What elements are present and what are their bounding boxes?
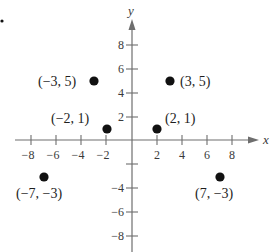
point-label: (7, −3) — [195, 186, 234, 202]
y-tick-label: 8 — [118, 38, 124, 52]
point-neg2-1 — [102, 124, 111, 133]
y-axis-label: y — [126, 3, 134, 18]
x-axis — [15, 137, 259, 144]
y-tick-label: −6 — [111, 205, 124, 219]
point-label: (−2, 1) — [51, 111, 90, 127]
x-tick-label: −6 — [47, 148, 60, 162]
point-neg7-neg3 — [39, 172, 48, 181]
y-tick-label: 6 — [118, 62, 124, 76]
x-tick-label: 8 — [229, 148, 235, 162]
point-label: (2, 1) — [165, 111, 196, 127]
x-axis-arrow-icon — [248, 137, 259, 144]
point-label: (−3, 5) — [38, 74, 77, 90]
stray-bullet-dot — [0, 19, 3, 22]
point-labels: (−3, 5) (3, 5) (−2, 1) (2, 1) (−7, −3) (… — [16, 74, 234, 202]
x-tick-label: 2 — [154, 148, 160, 162]
x-tick-label: −8 — [22, 148, 35, 162]
point-7-neg3 — [215, 172, 224, 181]
y-tick-label: −8 — [111, 229, 124, 243]
x-axis-label: x — [262, 132, 269, 147]
point-neg3-5 — [89, 76, 98, 85]
point-2-1 — [152, 124, 161, 133]
x-tick-labels: −8 −6 −4 −2 2 4 6 8 — [22, 148, 235, 162]
point-3-5 — [165, 76, 174, 85]
x-tick-label: −2 — [97, 148, 110, 162]
y-tick-label: 4 — [118, 86, 124, 100]
x-tick-label: −4 — [72, 148, 85, 162]
y-tick-label: 2 — [118, 110, 124, 124]
y-axis-arrow-icon — [129, 19, 136, 30]
x-tick-label: 4 — [179, 148, 185, 162]
point-label: (−7, −3) — [16, 186, 62, 202]
y-axis — [129, 19, 136, 252]
y-tick-label: −4 — [111, 181, 124, 195]
coordinate-plane: y x −8 −6 −4 −2 2 4 6 8 8 6 4 2 — [0, 0, 272, 252]
x-tick-label: 6 — [204, 148, 210, 162]
point-label: (3, 5) — [180, 74, 211, 90]
